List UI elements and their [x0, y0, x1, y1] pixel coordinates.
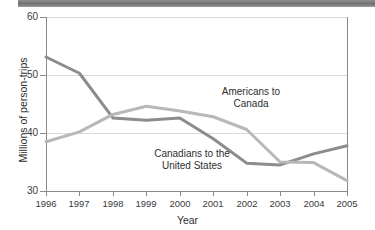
chart-figure: 60 50 40 30 1996 1997 1998 1999 2000 200…	[0, 0, 375, 230]
annotation-americans-to-canada: Americans to Canada	[196, 86, 306, 110]
annotation-canadians-to-us: Canadians to the United States	[132, 148, 252, 172]
series-layer	[0, 0, 375, 230]
